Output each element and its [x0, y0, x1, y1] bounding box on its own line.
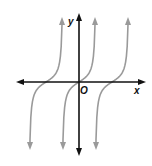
tangent-graph: y x O [0, 0, 152, 166]
branch-center-top-arrow [92, 17, 98, 25]
branch-right-top-arrow [125, 17, 131, 25]
y-axis-bottom-arrow [76, 148, 82, 156]
origin-label: O [80, 85, 88, 96]
branch-left-bottom-arrow [27, 142, 33, 150]
x-axis-left-arrow [16, 79, 24, 85]
branch-left [30, 22, 62, 145]
y-axis-label: y [67, 16, 74, 27]
branch-right-bottom-arrow [93, 142, 99, 150]
y-axis-top-arrow [76, 13, 82, 21]
branch-center-bottom-arrow [60, 142, 66, 150]
branch-left-top-arrow [59, 17, 65, 25]
x-axis-label: x [133, 85, 140, 96]
branch-right [96, 22, 128, 145]
